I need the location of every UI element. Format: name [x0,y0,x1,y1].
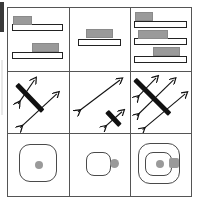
block-1-left [135,12,153,21]
cell-r3c1 [8,134,69,196]
matrix-row-3 [8,133,191,196]
cell-r3c3 [130,134,191,196]
matrix-row-1 [8,8,191,71]
bar-1 [134,21,187,28]
matrix-row-2 [8,71,191,134]
cell-r2c1 [8,72,69,134]
cell-r3c2 [69,134,130,196]
rounded-square-small [86,152,111,177]
left-edge-faint-mark [1,60,3,115]
bar-2 [12,52,63,59]
left-edge-artifact [0,2,4,32]
bar-1 [78,39,121,46]
block-2-right [32,43,59,52]
arrow-1 [78,80,120,112]
cell-r2c3 [130,72,191,134]
cell-r1c3 [130,8,191,71]
bar-1 [12,24,63,31]
bar-2 [134,38,187,45]
block-1-left [13,16,31,25]
cell-r2c2 [69,72,130,134]
side-nub [110,159,119,168]
cell-r1c2 [69,8,130,71]
bar-3 [134,56,187,63]
cell-r1c1 [8,8,69,71]
side-nub [169,158,179,168]
matrix-grid [7,7,192,197]
block-1-center [86,29,112,38]
figure-root [0,0,199,203]
block-3-right [153,47,181,56]
block-2-center [138,30,168,39]
